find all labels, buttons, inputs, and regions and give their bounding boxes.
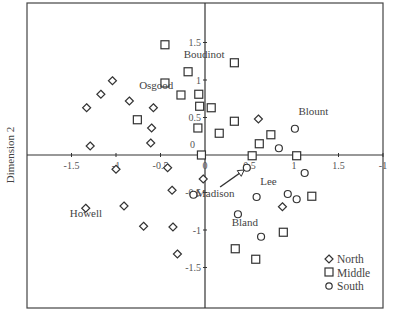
y-tick-label: 0: [190, 139, 195, 150]
point-middle: [196, 102, 204, 110]
point-south: [291, 125, 298, 132]
y-tick-label: -1: [193, 225, 201, 236]
point-middle: [231, 245, 239, 253]
point-label-boudinot: Boudinot: [184, 48, 225, 60]
point-label-blount: Blount: [298, 105, 328, 117]
point-middle: [230, 59, 238, 67]
point-middle: [161, 41, 169, 49]
y-tick-label: -1.5: [185, 262, 201, 273]
point-middle: [133, 116, 141, 124]
legend: North Middle South: [325, 253, 370, 292]
point-label-madison: Madison: [196, 187, 235, 199]
scatter-chart: -1.5-1-0.500.511.5-11.510.50-0.5-1-1.5 B…: [0, 0, 395, 315]
point-middle: [215, 129, 223, 137]
point-middle: [184, 68, 192, 76]
x-tick-label: 1.5: [332, 160, 345, 171]
point-label-howell: Howell: [70, 207, 102, 219]
legend-label-middle: Middle: [337, 267, 370, 279]
point-middle: [197, 151, 205, 159]
point-south: [301, 170, 308, 177]
x-tick-label: 1: [292, 160, 297, 171]
y-tick-label: 0.5: [189, 112, 202, 123]
point-label-osgood: Osgood: [139, 79, 174, 91]
point-middle: [177, 91, 185, 99]
point-south: [258, 233, 265, 240]
point-middle: [248, 152, 256, 160]
point-middle: [230, 117, 238, 125]
legend-label-north: North: [337, 253, 364, 265]
square-icon: [325, 268, 333, 276]
point-middle: [267, 131, 275, 139]
point-label-bland: Bland: [232, 216, 259, 228]
legend-label-south: South: [337, 280, 364, 292]
point-middle: [252, 255, 260, 263]
circle-icon: [326, 283, 332, 289]
y-axis-label: Dimension 2: [4, 127, 16, 184]
x-tick-label: -1.5: [64, 160, 80, 171]
point-middle: [207, 104, 215, 112]
point-middle: [293, 152, 301, 160]
point-south: [293, 196, 300, 203]
point-middle: [308, 192, 316, 200]
point-south: [284, 191, 291, 198]
point-middle: [255, 140, 263, 148]
x-tick-label: -1: [379, 160, 387, 171]
point-label-lee: Lee: [260, 175, 277, 187]
point-middle: [195, 90, 203, 98]
y-tick-label: 1.5: [189, 37, 202, 48]
point-middle: [194, 124, 202, 132]
y-tick-label: 1: [196, 75, 201, 86]
x-tick-label: 0: [203, 160, 208, 171]
point-south: [275, 145, 282, 152]
point-middle: [279, 228, 287, 236]
point-south: [253, 194, 260, 201]
